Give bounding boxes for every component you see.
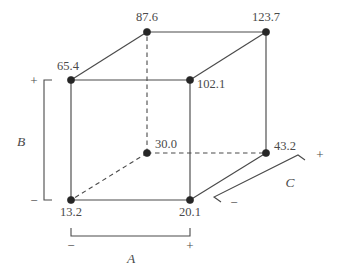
response-label-back-bottom-right: 43.2 <box>274 139 296 153</box>
corner-dots-group <box>67 28 269 203</box>
response-label-front-bottom-left: 13.2 <box>60 205 82 219</box>
axis-b-low-sign: − <box>30 193 37 208</box>
response-label-back-bottom-left: 30.0 <box>155 137 177 151</box>
corner-dot-back-bottom-left <box>143 149 150 156</box>
response-label-back-top-left: 87.6 <box>136 10 158 24</box>
corner-dot-back-top-right <box>262 28 269 35</box>
cube-plot-canvas: 87.6 123.7 65.4 102.1 30.0 43.2 13.2 20.… <box>0 0 339 268</box>
axis-a-bracket <box>71 228 190 236</box>
axis-c-label: C <box>285 175 295 190</box>
response-label-back-top-right: 123.7 <box>252 10 280 24</box>
axis-c-low-sign: − <box>230 195 237 210</box>
edge-dashed-bbl-to-fbl <box>71 153 147 200</box>
visible-edges-group <box>71 32 266 200</box>
axis-b-label: B <box>17 134 25 149</box>
corner-dot-front-top-left <box>67 76 74 83</box>
corner-dot-back-bottom-right <box>262 149 269 156</box>
cube-plot-figure: 87.6 123.7 65.4 102.1 30.0 43.2 13.2 20.… <box>0 0 339 268</box>
response-label-front-top-left: 65.4 <box>57 59 80 73</box>
response-labels-group: 87.6 123.7 65.4 102.1 30.0 43.2 13.2 20.… <box>57 10 296 219</box>
corner-dot-front-bottom-right <box>186 196 193 203</box>
axis-b-bracket <box>44 80 52 200</box>
corner-dot-front-bottom-left <box>67 196 74 203</box>
response-label-front-top-right: 102.1 <box>197 77 225 91</box>
axis-a-low-sign: − <box>67 238 74 253</box>
axis-c-group: − + C <box>214 147 324 210</box>
axis-a-high-sign: + <box>186 238 193 253</box>
hidden-edges-group <box>71 32 266 200</box>
corner-dot-back-top-left <box>143 28 150 35</box>
axis-b-group: + − B <box>17 73 52 208</box>
axis-c-high-sign: + <box>316 147 323 162</box>
edge-ftl-to-btl <box>71 32 147 80</box>
response-label-front-bottom-right: 20.1 <box>179 205 201 219</box>
axis-a-group: − + A <box>67 228 193 266</box>
axis-b-high-sign: + <box>30 73 37 88</box>
corner-dot-front-top-right <box>186 76 193 83</box>
axis-a-label: A <box>126 251 136 266</box>
edge-ftr-to-btr <box>190 32 266 80</box>
